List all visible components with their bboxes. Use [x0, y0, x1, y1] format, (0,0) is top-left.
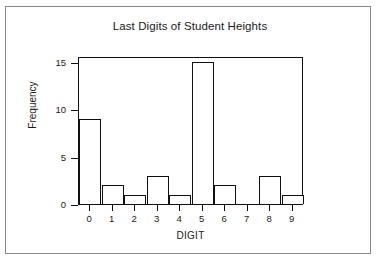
- x-axis-tick-label: 3: [146, 213, 168, 224]
- y-axis-tick: [71, 63, 78, 64]
- x-axis-tick-label: 4: [168, 213, 190, 224]
- histogram-bar: [237, 203, 259, 204]
- plot-area: [78, 57, 303, 205]
- y-axis-tick: [71, 205, 78, 206]
- x-axis-tick-label: 7: [236, 213, 258, 224]
- x-axis-tick: [179, 205, 180, 211]
- histogram-bar: [147, 176, 169, 204]
- x-axis-tick-label: 6: [213, 213, 235, 224]
- histogram-bar: [124, 195, 146, 204]
- y-axis-tick-label: 5: [36, 152, 66, 163]
- histogram-bar: [79, 119, 101, 204]
- x-axis-label: DIGIT: [78, 230, 303, 241]
- x-axis-tick-label: 8: [258, 213, 280, 224]
- histogram-bar: [102, 185, 124, 204]
- histogram-bar: [169, 195, 191, 204]
- histogram-bar: [214, 185, 236, 204]
- x-axis-tick: [269, 205, 270, 211]
- y-axis-tick-label: 15: [36, 57, 66, 68]
- x-axis-tick-label: 2: [123, 213, 145, 224]
- x-axis-tick: [134, 205, 135, 211]
- x-axis-tick-label: 9: [281, 213, 303, 224]
- chart-title: Last Digits of Student Heights: [0, 20, 380, 32]
- x-axis-tick: [157, 205, 158, 211]
- histogram-bar: [259, 176, 281, 204]
- histogram-figure: Last Digits of Student Heights 051015 01…: [0, 0, 380, 264]
- x-axis-tick-label: 5: [191, 213, 213, 224]
- x-axis-tick: [292, 205, 293, 211]
- y-axis-label: Frequency: [27, 70, 41, 140]
- x-axis-tick: [112, 205, 113, 211]
- x-axis-tick-label: 1: [101, 213, 123, 224]
- x-axis-tick: [89, 205, 90, 211]
- x-axis-tick: [247, 205, 248, 211]
- y-axis-tick-label: 0: [36, 199, 66, 210]
- histogram-bar: [282, 195, 304, 204]
- y-axis-tick: [71, 110, 78, 111]
- histogram-bar: [192, 62, 214, 204]
- x-axis-tick: [202, 205, 203, 211]
- x-axis-tick-label: 0: [78, 213, 100, 224]
- x-axis-tick: [224, 205, 225, 211]
- bars-container: [79, 58, 302, 204]
- y-axis-tick: [71, 158, 78, 159]
